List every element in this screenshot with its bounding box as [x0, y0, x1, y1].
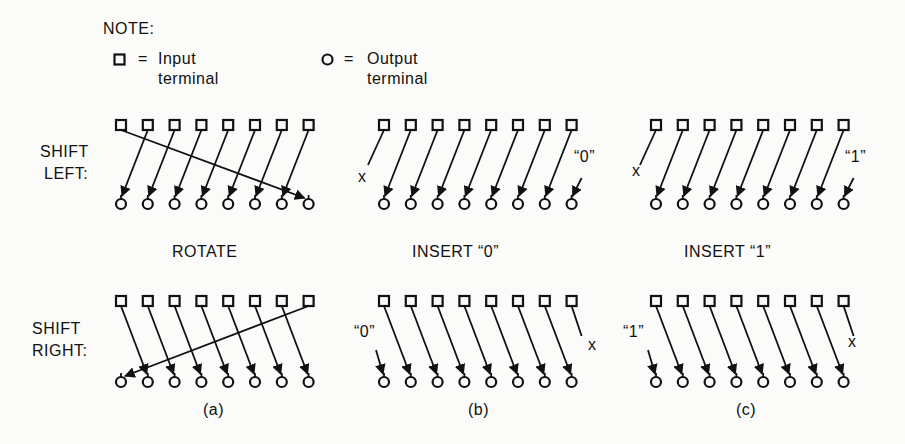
insert-wire — [573, 178, 582, 196]
output-terminal — [678, 199, 688, 209]
input-terminal — [277, 120, 287, 130]
shift-right-wire — [491, 306, 517, 374]
input-terminal — [304, 120, 314, 130]
input-terminal — [459, 120, 469, 130]
shift-left-wire — [546, 130, 572, 196]
shift-left-wire — [657, 130, 683, 196]
output-terminal — [304, 199, 314, 209]
input-terminal — [839, 120, 849, 130]
shift-network-diagram — [0, 0, 905, 444]
shift-left-wire — [176, 130, 202, 196]
output-terminal — [651, 199, 661, 209]
shift-right-wire — [683, 306, 709, 374]
input-terminal — [678, 296, 688, 306]
input-terminal — [651, 120, 661, 130]
discard-wire — [844, 306, 854, 336]
shift-left-wire — [465, 130, 491, 196]
output-terminal — [379, 199, 389, 209]
shift-right-wire — [201, 306, 227, 374]
output-terminal — [406, 199, 416, 209]
input-terminal — [250, 296, 260, 306]
input-terminal — [486, 120, 496, 130]
shift-left-wire — [283, 130, 309, 196]
input-terminal — [304, 296, 314, 306]
input-terminal — [277, 296, 287, 306]
input-terminal — [406, 120, 416, 130]
output-terminal — [459, 199, 469, 209]
input-terminal — [223, 120, 233, 130]
input-terminal — [651, 296, 661, 306]
shift-right-wire — [790, 306, 816, 374]
output-terminal — [250, 377, 260, 387]
input-terminal — [223, 296, 233, 306]
output-terminal — [143, 377, 153, 387]
shift-right-wire — [817, 306, 843, 374]
discard-wire — [368, 130, 384, 165]
output-terminal — [812, 377, 822, 387]
shift-right-wire — [148, 306, 174, 374]
shift-left-wire — [492, 130, 518, 196]
input-terminal — [567, 296, 577, 306]
output-terminal — [540, 377, 550, 387]
input-terminal — [705, 120, 715, 130]
input-terminal — [812, 120, 822, 130]
shift-left-wire — [791, 130, 817, 196]
output-terminal — [486, 199, 496, 209]
output-terminal — [116, 199, 126, 209]
output-terminal — [812, 199, 822, 209]
input-terminal — [839, 296, 849, 306]
input-terminal — [459, 296, 469, 306]
shift-right-wire — [710, 306, 736, 374]
shift-right-wire — [438, 306, 464, 374]
output-terminal — [731, 199, 741, 209]
input-terminal — [731, 120, 741, 130]
input-terminal — [567, 120, 577, 130]
shift-left-wire — [122, 130, 148, 196]
input-terminal — [678, 120, 688, 130]
output-terminal — [196, 377, 206, 387]
output-terminal — [406, 377, 416, 387]
shift-right-wire — [763, 306, 789, 374]
output-terminal — [705, 199, 715, 209]
shift-right-wire — [255, 306, 281, 374]
output-terminal — [250, 199, 260, 209]
input-terminal — [758, 120, 768, 130]
shift-right-wire — [656, 306, 682, 374]
insert-wire — [648, 350, 655, 374]
input-terminal — [379, 120, 389, 130]
shift-right-wire — [121, 306, 147, 374]
shift-left-wire — [149, 130, 175, 196]
output-terminal — [196, 199, 206, 209]
output-terminal — [143, 199, 153, 209]
output-terminal — [567, 199, 577, 209]
input-terminal — [433, 120, 443, 130]
input-terminal — [406, 296, 416, 306]
shift-left-wire — [439, 130, 465, 196]
shift-right-wire — [736, 306, 762, 374]
input-terminal — [812, 296, 822, 306]
output-terminal — [170, 199, 180, 209]
shift-left-wire — [764, 130, 790, 196]
shift-right-wire — [518, 306, 544, 374]
shift-right-wire — [175, 306, 201, 374]
output-terminal — [486, 377, 496, 387]
output-terminal — [379, 377, 389, 387]
shift-left-wire — [229, 130, 255, 196]
shift-left-wire — [385, 130, 411, 196]
output-terminal — [433, 377, 443, 387]
input-terminal — [785, 296, 795, 306]
shift-right-wire — [545, 306, 571, 374]
output-terminal — [731, 377, 741, 387]
shift-right-wire — [384, 306, 410, 374]
input-terminal — [116, 120, 126, 130]
output-terminal — [705, 377, 715, 387]
output-terminal — [513, 377, 523, 387]
output-terminal — [758, 377, 768, 387]
input-terminal — [540, 120, 550, 130]
input-terminal — [170, 120, 180, 130]
input-terminal — [513, 120, 523, 130]
shift-left-wire — [256, 130, 282, 196]
input-terminal — [486, 296, 496, 306]
output-terminal — [758, 199, 768, 209]
output-terminal — [304, 377, 314, 387]
